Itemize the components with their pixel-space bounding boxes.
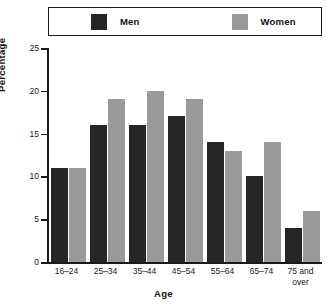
bar-women (147, 91, 164, 262)
bar-men (90, 125, 107, 262)
bar-men (246, 176, 263, 262)
bar-women (303, 211, 320, 262)
x-axis-line (47, 262, 322, 264)
bar-men (129, 125, 146, 262)
bar-men (207, 142, 224, 262)
legend-swatch-men (91, 14, 107, 30)
bar-women (186, 99, 203, 262)
bar-women (108, 99, 125, 262)
bar-groups (49, 48, 322, 262)
x-tick-label: 55–64 (203, 266, 242, 277)
y-tick-label: 15 (19, 129, 39, 139)
bar-group (49, 48, 88, 262)
x-tick-label: 75 and over (281, 266, 320, 288)
bar-men (285, 228, 302, 262)
plot-area: 0510152025 (47, 48, 322, 262)
y-tick-label: 20 (19, 86, 39, 96)
y-tick-label: 25 (19, 43, 39, 53)
legend-entry-women: Women (232, 14, 296, 30)
bar-group (283, 48, 322, 262)
bar-men (51, 168, 68, 262)
bar-men (168, 116, 185, 262)
legend-entry-men: Men (91, 14, 140, 30)
y-tick (41, 262, 47, 264)
chart-legend: Men Women (48, 7, 322, 36)
x-axis-title: Age (0, 288, 327, 299)
x-tick-label: 45–54 (164, 266, 203, 277)
bar-group (205, 48, 244, 262)
y-axis-title: Percentage (0, 38, 7, 92)
bar-women (225, 151, 242, 262)
bar-women (69, 168, 86, 262)
x-tick-label: 35–44 (125, 266, 164, 277)
legend-label-men: Men (120, 16, 140, 27)
x-tick-label: 25–34 (86, 266, 125, 277)
bar-chart: Men Women 0510152025 Percentage 16–2425–… (0, 0, 327, 304)
bar-group (244, 48, 283, 262)
y-tick (41, 219, 47, 221)
x-tick-label: 16–24 (47, 266, 86, 277)
y-tick (41, 48, 47, 50)
y-tick (41, 176, 47, 178)
y-tick (41, 91, 47, 93)
y-tick-label: 0 (19, 257, 39, 267)
x-tick-label: 65–74 (242, 266, 281, 277)
bar-group (166, 48, 205, 262)
bar-group (127, 48, 166, 262)
legend-swatch-women (232, 14, 248, 30)
bar-women (264, 142, 281, 262)
y-tick (41, 134, 47, 136)
y-tick-label: 5 (19, 214, 39, 224)
y-tick-label: 10 (19, 171, 39, 181)
bar-group (88, 48, 127, 262)
legend-label-women: Women (261, 16, 296, 27)
